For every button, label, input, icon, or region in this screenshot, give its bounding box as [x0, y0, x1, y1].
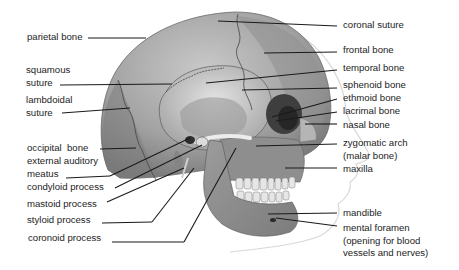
label-text: (opening for blood [343, 235, 428, 248]
label-text: coronal suture [343, 19, 404, 30]
label-text: nasal bone [343, 119, 390, 130]
label-text: mental foramen [343, 222, 428, 235]
label-text: mandible [343, 207, 382, 218]
label-text: lacrimal bone [343, 105, 400, 116]
label-frontal-bone: frontal bone [343, 44, 394, 57]
label-text: vessels and nerves) [343, 247, 428, 260]
label-occipital-bone: occipital bone [27, 142, 88, 155]
label-text: lambdoidal [26, 94, 72, 107]
label-text: squamous [26, 64, 70, 77]
zygomatic-maxilla-shape [219, 137, 304, 182]
label-text: sphenoid bone [343, 79, 406, 90]
label-condyloid-process: condyloid process [27, 181, 104, 194]
label-nasal-bone: nasal bone [343, 119, 390, 132]
label-coronoid-process: coronoid process [28, 232, 101, 245]
label-text: meatus [27, 168, 98, 181]
label-text: frontal bone [343, 44, 394, 55]
label-lacrimal-bone: lacrimal bone [343, 105, 400, 118]
label-text: temporal bone [343, 62, 404, 73]
label-text: external auditory [27, 155, 98, 168]
teeth [236, 177, 295, 202]
label-external-auditory-meatus: external auditory meatus [27, 155, 98, 180]
label-lambdoidal-suture: lambdoidal suture [26, 94, 72, 119]
label-maxilla: maxilla [343, 163, 373, 176]
label-text: mastoid process [27, 198, 97, 209]
label-text: parietal bone [27, 31, 82, 42]
label-text: (malar bone) [343, 150, 408, 163]
label-text: suture [26, 77, 70, 90]
label-styloid-process: styloid process [27, 214, 90, 227]
label-text: occipital bone [27, 142, 88, 153]
skull-diagram: parietal bone squamous suture lambdoidal… [0, 0, 459, 270]
label-coronal-suture: coronal suture [343, 19, 404, 32]
label-mandible: mandible [343, 207, 382, 220]
label-text: zygomatic arch [343, 137, 408, 150]
label-squamous-suture: squamous suture [26, 64, 70, 89]
label-temporal-bone: temporal bone [343, 62, 404, 75]
label-text: styloid process [27, 214, 90, 225]
label-text: maxilla [343, 163, 373, 174]
mental-foramen-hole [270, 218, 276, 222]
label-parietal-bone: parietal bone [27, 31, 82, 44]
label-mastoid-process: mastoid process [27, 198, 97, 211]
label-sphenoid-bone: sphenoid bone [343, 79, 406, 92]
label-mental-foramen: mental foramen (opening for blood vessel… [343, 222, 428, 260]
label-zygomatic-arch: zygomatic arch (malar bone) [343, 137, 408, 162]
label-text: condyloid process [27, 181, 104, 192]
label-text: coronoid process [28, 232, 101, 243]
label-ethmoid-bone: ethmoid bone [343, 92, 401, 105]
label-text: ethmoid bone [343, 92, 401, 103]
label-text: suture [26, 107, 72, 120]
